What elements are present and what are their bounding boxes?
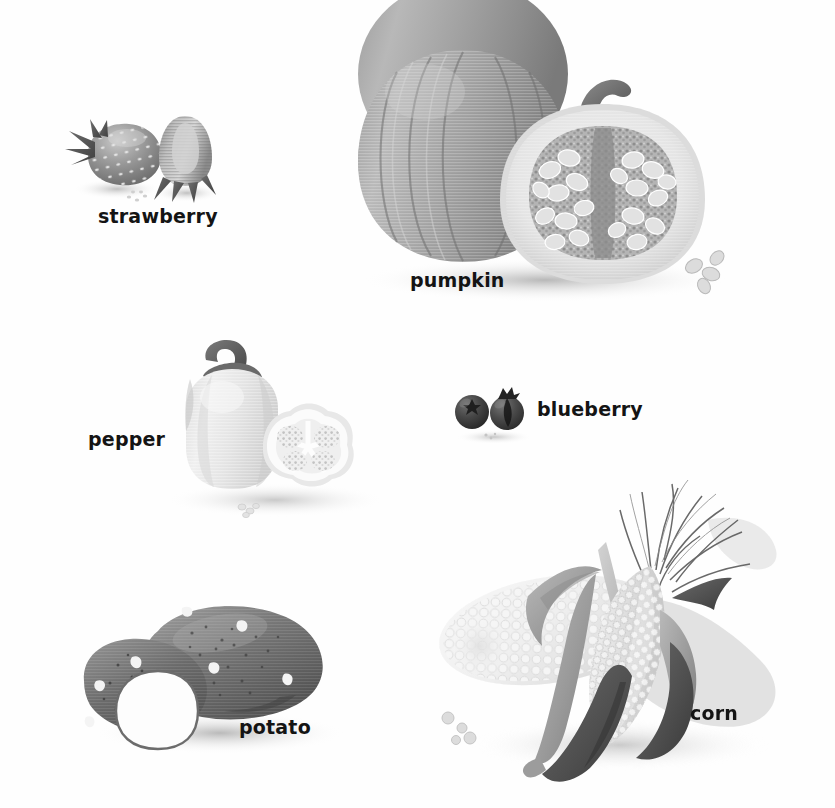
corn-illustration [420,470,810,780]
blueberry-cross-section [490,387,524,430]
potato-cut-face [116,671,198,749]
corn-leaf-right-top [672,578,732,610]
blueberry-whole [455,395,489,429]
label-potato: potato [239,716,311,738]
specimen-potato [70,585,350,765]
label-blueberry: blueberry [537,398,643,420]
label-pumpkin: pumpkin [410,269,505,291]
blueberry-shadow [456,430,532,444]
label-strawberry: strawberry [98,205,218,227]
label-pepper: pepper [88,428,165,450]
specimen-pepper [150,335,400,525]
strawberry-illustration [55,105,240,205]
blueberry-crown [498,387,520,399]
blueberry-illustration [450,385,540,450]
specimen-blueberry [450,385,540,450]
pepper-whole [185,340,278,489]
corn-loose-kernels [442,712,476,745]
specimen-pumpkin [345,30,745,305]
label-corn: corn [690,702,738,724]
illustration-poster: strawberry [0,0,835,808]
potato-illustration [70,585,350,765]
pepper-illustration [150,335,400,525]
pumpkin-illustration [345,30,745,305]
specimen-corn [420,470,810,780]
pepper-shadow [165,483,385,517]
specimen-strawberry [55,105,240,205]
strawberry-whole [65,119,161,185]
